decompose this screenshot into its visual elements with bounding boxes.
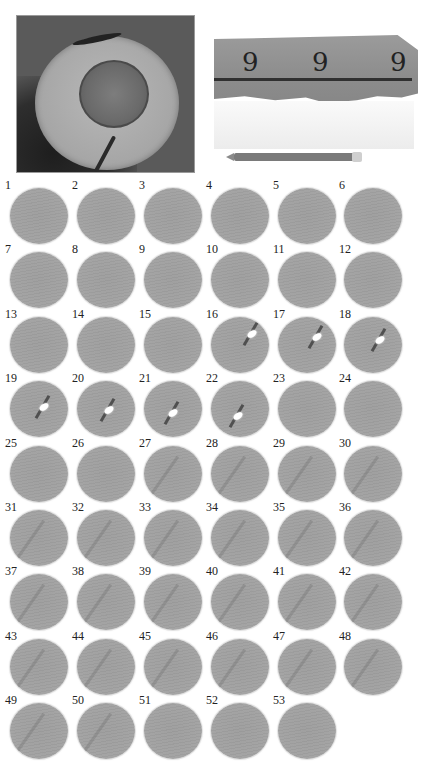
slice-image bbox=[77, 510, 135, 566]
slice-number: 47 bbox=[273, 629, 285, 643]
slice-image bbox=[211, 703, 269, 759]
slice-number: 23 bbox=[273, 371, 285, 385]
fracture-line bbox=[14, 520, 45, 563]
slice-image bbox=[344, 381, 402, 437]
slice-image bbox=[278, 188, 336, 244]
slice-cell: 38 bbox=[72, 564, 138, 628]
slice-image bbox=[344, 639, 402, 695]
slice-number: 30 bbox=[339, 436, 351, 450]
slice-image bbox=[211, 381, 269, 437]
pencil-tip bbox=[226, 153, 234, 161]
slice-image bbox=[10, 317, 68, 373]
slice-cell: 13 bbox=[5, 307, 71, 371]
slice-image bbox=[10, 381, 68, 437]
slice-cell: 36 bbox=[339, 500, 405, 564]
slice-image bbox=[278, 381, 336, 437]
slice-image bbox=[10, 639, 68, 695]
slice-number: 1 bbox=[5, 178, 11, 192]
slice-number: 15 bbox=[139, 307, 151, 321]
slice-number: 53 bbox=[273, 693, 285, 707]
slice-image bbox=[10, 703, 68, 759]
slice-number: 33 bbox=[139, 500, 151, 514]
slice-cell: 10 bbox=[206, 242, 272, 306]
slice-image bbox=[144, 446, 202, 502]
caption-blur bbox=[140, 764, 300, 772]
slice-cell: 52 bbox=[206, 693, 272, 757]
slice-cell: 51 bbox=[139, 693, 205, 757]
slice-cell: 16 bbox=[206, 307, 272, 371]
slice-cell: 2 bbox=[72, 178, 138, 242]
slice-number: 28 bbox=[206, 436, 218, 450]
slice-number: 8 bbox=[72, 242, 78, 256]
slice-number: 20 bbox=[72, 371, 84, 385]
slice-image bbox=[10, 574, 68, 630]
slice-image bbox=[10, 446, 68, 502]
slice-number: 22 bbox=[206, 371, 218, 385]
slice-number: 44 bbox=[72, 629, 84, 643]
fracture-line bbox=[215, 455, 246, 498]
slice-number: 32 bbox=[72, 500, 84, 514]
slice-cell: 15 bbox=[139, 307, 205, 371]
slice-cell: 24 bbox=[339, 371, 405, 435]
slice-number: 10 bbox=[206, 242, 218, 256]
bubble-spot bbox=[38, 402, 50, 413]
slice-number: 52 bbox=[206, 693, 218, 707]
slice-image bbox=[144, 188, 202, 244]
slice-cell: 33 bbox=[139, 500, 205, 564]
slice-number: 17 bbox=[273, 307, 285, 321]
slice-image bbox=[344, 446, 402, 502]
fracture-line bbox=[215, 520, 246, 563]
slice-image bbox=[77, 446, 135, 502]
slice-image bbox=[144, 317, 202, 373]
slice-image bbox=[144, 574, 202, 630]
slab-mark: 9 bbox=[242, 49, 259, 75]
bubble-spot bbox=[375, 334, 387, 345]
fracture-line bbox=[282, 584, 313, 627]
bubble-spot bbox=[168, 408, 180, 419]
slab-mark: 9 bbox=[390, 49, 407, 75]
fracture-line bbox=[348, 455, 379, 498]
slice-number: 19 bbox=[5, 371, 17, 385]
fracture-line bbox=[81, 584, 112, 627]
slice-number: 2 bbox=[72, 178, 78, 192]
slice-cell: 32 bbox=[72, 500, 138, 564]
fracture-line bbox=[282, 455, 313, 498]
slice-number: 39 bbox=[139, 564, 151, 578]
slice-number: 29 bbox=[273, 436, 285, 450]
slice-number: 36 bbox=[339, 500, 351, 514]
slice-cell: 35 bbox=[273, 500, 339, 564]
slice-number: 4 bbox=[206, 178, 212, 192]
slice-image bbox=[10, 188, 68, 244]
slice-cell: 6 bbox=[339, 178, 405, 242]
slice-cell: 1 bbox=[5, 178, 71, 242]
slice-image bbox=[344, 510, 402, 566]
fracture-line bbox=[282, 520, 313, 563]
slice-number: 37 bbox=[5, 564, 17, 578]
slice-number: 51 bbox=[139, 693, 151, 707]
slice-image bbox=[211, 639, 269, 695]
slice-image bbox=[278, 703, 336, 759]
fracture-line bbox=[148, 455, 179, 498]
slice-image bbox=[144, 703, 202, 759]
slab-photo: 9 9 9 bbox=[212, 33, 420, 173]
slice-image bbox=[211, 252, 269, 308]
slice-cell: 41 bbox=[273, 564, 339, 628]
slice-image bbox=[211, 317, 269, 373]
slice-image bbox=[144, 252, 202, 308]
slice-number: 27 bbox=[139, 436, 151, 450]
slice-cell: 29 bbox=[273, 436, 339, 500]
slice-image bbox=[144, 510, 202, 566]
slice-number: 38 bbox=[72, 564, 84, 578]
slice-image bbox=[211, 188, 269, 244]
slice-cell: 28 bbox=[206, 436, 272, 500]
fracture-line bbox=[215, 648, 246, 691]
slice-cell: 42 bbox=[339, 564, 405, 628]
slice-cell: 8 bbox=[72, 242, 138, 306]
slice-cell: 14 bbox=[72, 307, 138, 371]
slice-image bbox=[344, 317, 402, 373]
fracture-line bbox=[215, 584, 246, 627]
slice-image bbox=[211, 510, 269, 566]
slice-cell: 22 bbox=[206, 371, 272, 435]
slice-image bbox=[77, 317, 135, 373]
fracture-line bbox=[348, 520, 379, 563]
